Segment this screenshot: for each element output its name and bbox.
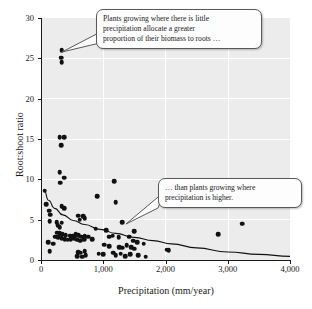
callout-1-line-2: precipitation allocate a greater [103, 24, 255, 34]
figure: 01,0002,0003,0004,000051015202530 Precip… [0, 0, 312, 309]
x-axis-tick-label: 3,000 [218, 264, 237, 274]
y-axis-tick [38, 18, 41, 19]
x-axis-tick-label: 2,000 [156, 264, 175, 274]
x-axis-tick-label: 0 [39, 264, 43, 274]
y-axis-tick-label: 10 [26, 174, 35, 184]
y-axis-tick [38, 260, 41, 261]
y-axis-tick [38, 220, 41, 221]
x-axis-tick-label: 4,000 [280, 264, 299, 274]
x-axis-tick-label: 1,000 [94, 264, 113, 274]
callout-2-line-1: … than plants growing where [165, 183, 295, 193]
callout-low-precipitation: Plants growing where there is little pre… [96, 9, 262, 49]
y-axis-tick-label: 20 [26, 94, 35, 104]
y-axis-tick [38, 58, 41, 59]
x-axis-label: Precipitation (mm/year) [41, 285, 291, 296]
y-axis-tick [38, 99, 41, 100]
y-axis-tick-label: 25 [26, 53, 35, 63]
y-axis-label: Root:shoot ratio [14, 90, 25, 200]
y-axis-tick-label: 15 [26, 134, 35, 144]
y-axis-tick [38, 139, 41, 140]
callout-2-line-2: precipitation is higher. [165, 193, 295, 203]
callout-1-line-3: proportion of their biomass to roots … [103, 34, 255, 44]
y-axis-line [41, 18, 42, 260]
callout-1-line-1: Plants growing where there is little [103, 14, 255, 24]
y-axis-tick-label: 0 [30, 255, 34, 265]
callout-high-precipitation: … than plants growing where precipitatio… [158, 178, 302, 208]
y-axis-tick-label: 5 [30, 215, 34, 225]
y-axis-tick [38, 179, 41, 180]
y-axis-tick-label: 30 [26, 13, 35, 23]
